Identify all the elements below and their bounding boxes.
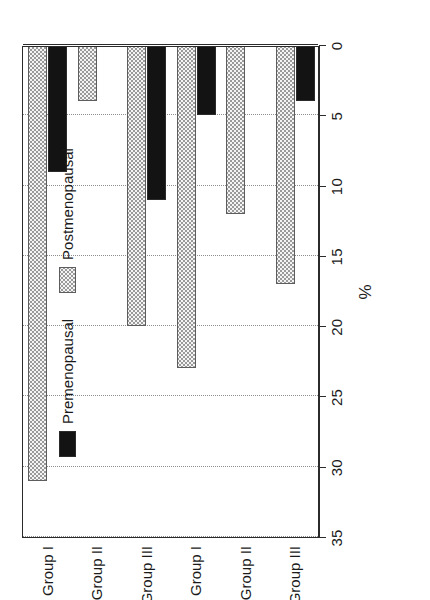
- tick-0: [319, 45, 326, 46]
- bar-premenopausal: [197, 47, 216, 115]
- plot-area: Premenopausal Postmenopausal: [22, 46, 319, 538]
- bar-postmenopausal: [276, 47, 295, 284]
- tick-label-25: 25: [328, 389, 345, 406]
- tick-label-20: 20: [328, 319, 345, 336]
- bar-premenopausal: [147, 47, 166, 200]
- bar-postmenopausal: [28, 47, 47, 481]
- value-axis: 05101520253035: [319, 46, 353, 538]
- gridline-0: [23, 44, 318, 45]
- tick-label-0: 0: [328, 42, 345, 51]
- value-axis-title: %: [356, 46, 376, 538]
- legend-item-premenopausal[interactable]: Premenopausal: [59, 319, 76, 457]
- legend-label-postmenopausal: Postmenopausal: [59, 148, 76, 260]
- tick-25: [319, 396, 326, 397]
- legend-item-postmenopausal[interactable]: Postmenopausal: [59, 148, 76, 293]
- tick-20: [319, 326, 326, 327]
- tick-label-5: 5: [328, 112, 345, 121]
- bar-postmenopausal: [177, 47, 196, 368]
- tick-label-10: 10: [328, 178, 345, 195]
- legend-swatch-postmenopausal-icon: [59, 267, 76, 293]
- tick-30: [319, 467, 326, 468]
- bar-premenopausal: [296, 47, 315, 101]
- tick-label-15: 15: [328, 248, 345, 265]
- chart-legend: Premenopausal Postmenopausal: [59, 148, 76, 457]
- section-titles: IrritabilityLoss of memory and concentra…: [22, 540, 319, 600]
- legend-swatch-premenopausal-icon: [59, 431, 76, 457]
- value-axis-line: [319, 46, 320, 538]
- bar-chart-figure: Premenopausal Postmenopausal 05101520253…: [0, 0, 430, 600]
- tick-10: [319, 186, 326, 187]
- bar-postmenopausal: [78, 47, 97, 101]
- chart-stage: Premenopausal Postmenopausal 05101520253…: [0, 0, 430, 600]
- tick-5: [319, 115, 326, 116]
- tick-label-30: 30: [328, 459, 345, 476]
- tick-35: [319, 537, 326, 538]
- legend-label-premenopausal: Premenopausal: [59, 319, 76, 424]
- tick-label-35: 35: [328, 529, 345, 546]
- bar-postmenopausal: [127, 47, 146, 326]
- bar-postmenopausal: [226, 47, 245, 214]
- tick-15: [319, 256, 326, 257]
